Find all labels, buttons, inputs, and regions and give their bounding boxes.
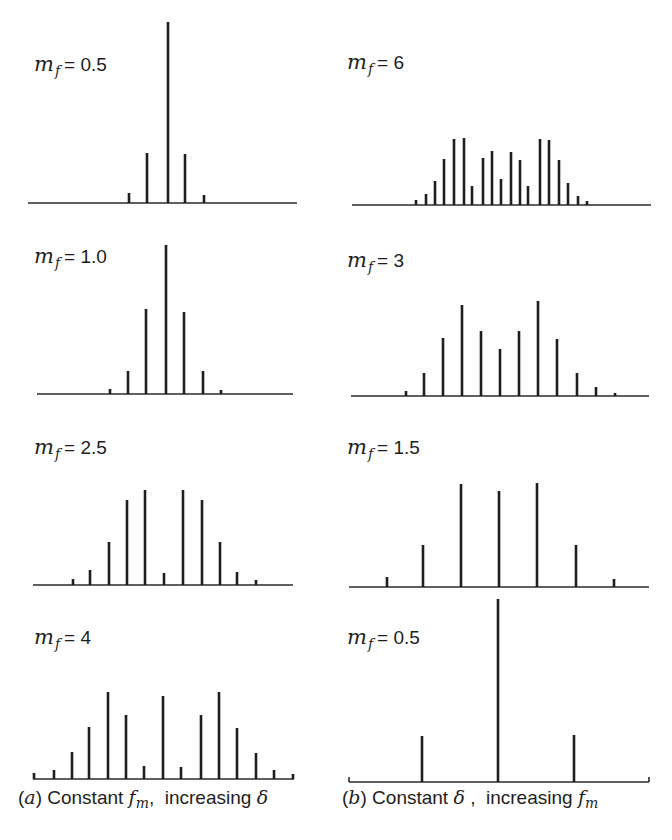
label-var: m xyxy=(34,244,54,268)
panel-label-a3: mf= 2.5 xyxy=(34,435,107,459)
label-value: = 3 xyxy=(377,250,404,271)
spectrum-panel-b3 xyxy=(349,483,649,587)
label-value: = 0.5 xyxy=(64,54,107,75)
panel-label-a2: mf= 1.0 xyxy=(34,244,107,268)
label-var-sub: f xyxy=(368,61,373,77)
caption-b-delta-symbol: δ xyxy=(453,786,464,808)
caption-a-var: f xyxy=(129,786,136,808)
label-var: m xyxy=(347,435,367,459)
panel-label-a1: mf= 0.5 xyxy=(34,52,107,76)
label-var: m xyxy=(347,248,367,272)
label-var-sub: f xyxy=(368,446,373,462)
caption-b-letter: b xyxy=(348,786,360,808)
label-var: m xyxy=(34,625,54,649)
label-value: = 2.5 xyxy=(64,437,107,458)
label-var: m xyxy=(34,435,54,459)
label-var: m xyxy=(347,50,367,74)
spectrum-panel-b1 xyxy=(352,138,651,205)
panel-label-b3: mf= 1.5 xyxy=(347,435,420,459)
label-value: = 1.0 xyxy=(64,246,107,267)
panel-label-b1: mf= 6 xyxy=(347,50,404,74)
caption-a: (a) Constant fm, increasing δ xyxy=(18,786,268,809)
caption-a-var-sub: m xyxy=(136,795,149,811)
caption-b-var-sub: m xyxy=(585,795,598,811)
label-var: m xyxy=(347,625,367,649)
caption-a-text2: , increasing xyxy=(149,787,257,808)
label-var-sub: f xyxy=(368,259,373,275)
label-var-sub: f xyxy=(55,636,60,652)
label-value: = 6 xyxy=(377,52,404,73)
spectrum-panel-a1 xyxy=(28,22,297,203)
panel-label-b4: mf= 0.5 xyxy=(347,625,420,649)
caption-b-var: f xyxy=(578,786,585,808)
label-var-sub: f xyxy=(55,63,60,79)
panel-label-b2: mf= 3 xyxy=(347,248,404,272)
label-var: m xyxy=(34,52,54,76)
label-var-sub: f xyxy=(55,446,60,462)
spectrum-panel-b2 xyxy=(351,301,649,396)
caption-b: (b) Constant δ , increasing fm xyxy=(342,786,598,809)
fm-spectrum-figure xyxy=(0,0,672,840)
caption-b-text2: , increasing xyxy=(465,787,578,808)
caption-a-delta-symbol: δ xyxy=(257,786,268,808)
label-value: = 4 xyxy=(64,627,91,648)
caption-b-text1: Constant xyxy=(367,787,454,808)
panel-label-a4: mf= 4 xyxy=(34,625,91,649)
label-var-sub: f xyxy=(55,255,60,271)
caption-a-letter: a xyxy=(24,786,35,808)
spectrum-panel-a3 xyxy=(33,490,293,585)
spectrum-panel-a4 xyxy=(33,692,294,779)
label-value: = 1.5 xyxy=(377,437,420,458)
label-var-sub: f xyxy=(368,636,373,652)
label-value: = 0.5 xyxy=(377,627,420,648)
caption-a-text1: Constant xyxy=(42,787,129,808)
